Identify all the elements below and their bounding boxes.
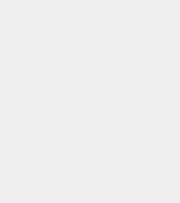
pinwheel-flower-diagram <box>0 0 180 203</box>
